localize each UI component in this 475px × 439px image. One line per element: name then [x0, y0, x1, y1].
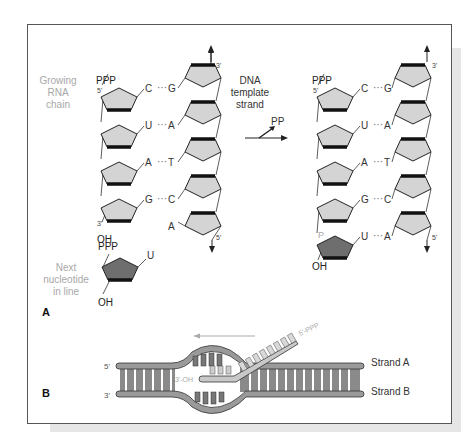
svg-text:U: U [361, 120, 368, 131]
svg-text:···: ··· [373, 193, 383, 204]
svg-text:G: G [384, 83, 392, 94]
svg-text:···: ··· [157, 193, 167, 204]
svg-text:G: G [145, 194, 153, 205]
base-pairs-before: C ··· G U ··· A A ··· T G ··· C A [145, 82, 176, 232]
svg-text:C: C [168, 194, 175, 205]
svg-text:DNA: DNA [239, 75, 260, 86]
panel-b-transcription-bubble [116, 333, 364, 414]
reaction-arrow [245, 126, 288, 141]
svg-text:···: ··· [373, 230, 383, 241]
next-nucleotide-ppp: PPP [98, 241, 118, 252]
five-prime-label: 5' [97, 87, 102, 94]
svg-text:Growing: Growing [39, 75, 76, 86]
svg-text:···: ··· [157, 119, 167, 130]
panel-b-label: B [42, 387, 50, 399]
rna-3prime-oh-label: 3'-OH [175, 376, 193, 383]
dna-three-prime-after: 3' [432, 62, 437, 69]
svg-text:A: A [168, 221, 175, 232]
next-nucleotide-oh: OH [98, 297, 113, 308]
svg-text:···: ··· [373, 156, 383, 167]
next-nucleotide-base: U [147, 250, 154, 261]
svg-text:template: template [231, 87, 270, 98]
svg-text:C: C [361, 83, 368, 94]
ppp-label: PPP [96, 75, 116, 86]
base-pairs-after: C ··· G U ··· A A ··· T G ··· C U ··· A [361, 82, 392, 242]
svg-text:A: A [168, 120, 175, 131]
svg-text:T: T [168, 157, 174, 168]
svg-text:T: T [384, 157, 390, 168]
dna-three-prime: 3' [216, 62, 221, 69]
dna-template-label: DNA template strand [231, 75, 270, 110]
svg-text:C: C [145, 83, 152, 94]
svg-text:chain: chain [46, 99, 70, 110]
svg-text:A: A [361, 157, 368, 168]
svg-text:···: ··· [373, 119, 383, 130]
svg-text:G: G [361, 194, 369, 205]
next-nucleotide [102, 254, 146, 294]
svg-text:A: A [384, 120, 391, 131]
svg-text:in line: in line [53, 286, 80, 297]
strand-b-label: Strand B [371, 386, 410, 397]
svg-text:U: U [145, 120, 152, 131]
svg-text:A: A [384, 231, 391, 242]
dna-template-before [178, 45, 221, 253]
rna-chain-before [101, 74, 144, 222]
rna-5prime-ppp-label: 5'-PPP [297, 321, 320, 337]
dna-five-prime-after: 5' [432, 234, 437, 241]
svg-text:···: ··· [157, 82, 167, 93]
transcription-diagram: Growing RNA chain PPP 5' 3' OH C ··· G U… [0, 0, 475, 439]
dna-five-prime: 5' [216, 234, 221, 241]
svg-text:Next: Next [56, 262, 77, 273]
three-prime-label: 3' [97, 220, 102, 227]
new-phosphate-label: P [318, 230, 324, 240]
panel-a-label: A [42, 306, 50, 318]
pp-byproduct-label: PP [271, 116, 285, 127]
svg-text:···: ··· [157, 156, 167, 167]
svg-text:···: ··· [373, 82, 383, 93]
five-prime-label-after: 5' [313, 87, 318, 94]
svg-text:C: C [384, 194, 391, 205]
svg-text:A: A [145, 157, 152, 168]
svg-text:RNA: RNA [47, 87, 68, 98]
oh-label-after: OH [312, 261, 327, 272]
svg-text:nucleotide: nucleotide [43, 274, 89, 285]
svg-text:strand: strand [236, 99, 264, 110]
strand-a-5prime: 5' [104, 362, 110, 371]
svg-text:G: G [168, 83, 176, 94]
strand-b-3prime: 3' [104, 391, 110, 400]
ppp-label-after: PPP [312, 75, 332, 86]
strand-a-label: Strand A [371, 357, 410, 368]
dna-template-after [392, 45, 431, 253]
next-nucleotide-label: Next nucleotide in line [43, 262, 89, 297]
svg-text:U: U [361, 231, 368, 242]
growing-rna-label: Growing RNA chain [39, 75, 76, 110]
